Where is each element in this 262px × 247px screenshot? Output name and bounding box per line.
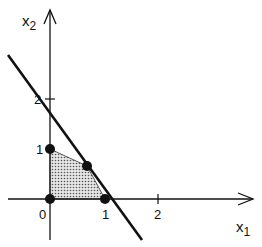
diagram-canvas: x2 x1 1 2 0 1 2: [0, 0, 262, 247]
tick-label-x-1: 1: [102, 207, 109, 222]
point-origin: [45, 194, 55, 204]
y-axis-label: x2: [22, 12, 37, 33]
constraint-line: [8, 55, 142, 240]
tick-label-x-0: 0: [39, 207, 46, 222]
tick-label-x-2: 2: [154, 207, 161, 222]
feasible-region: [50, 149, 105, 199]
x-axis-label: x1: [236, 218, 251, 239]
point-interior-vertex: [82, 161, 92, 171]
tick-label-y-2: 2: [34, 92, 41, 107]
tick-label-y-1: 1: [36, 142, 43, 157]
point-x1-intercept: [100, 194, 110, 204]
lp-diagram: x2 x1 1 2 0 1 2: [0, 0, 262, 247]
point-x2-intercept: [45, 144, 55, 154]
